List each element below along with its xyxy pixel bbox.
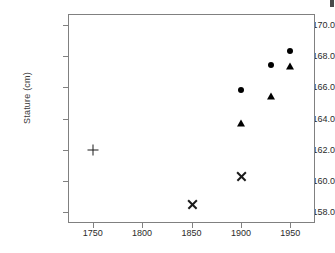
data-point-triangle — [267, 93, 275, 100]
x-axis-tick-label: 1900 — [218, 228, 264, 238]
x-axis-tick-label: 1950 — [267, 228, 313, 238]
x-axis-tick-label: 1750 — [70, 228, 116, 238]
x-axis-tick-label: 1850 — [169, 228, 215, 238]
data-point-circle — [287, 48, 293, 54]
data-point-circle — [268, 62, 274, 68]
data-point-triangle — [237, 119, 245, 126]
data-point-x — [235, 171, 246, 182]
data-point-plus — [87, 144, 98, 155]
crop-edge-artifact — [330, 0, 334, 7]
scatter-plot-figure: Stature (cm) 158.0160.0162.0164.0166.016… — [0, 0, 335, 253]
data-point-circle — [238, 87, 244, 93]
data-point-triangle — [286, 63, 294, 70]
data-point-x — [186, 199, 197, 210]
plot-area — [68, 14, 315, 223]
x-axis-tick-label: 1800 — [119, 228, 165, 238]
y-axis-title: Stature (cm) — [22, 53, 32, 143]
